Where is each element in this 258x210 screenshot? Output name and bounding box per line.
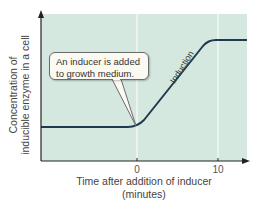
callout-line-1: An inducer is added (56, 56, 142, 68)
y-axis-title-line-1: Concentration of (7, 35, 19, 155)
y-axis-title: Concentration of inducible enzyme in a c… (2, 30, 36, 160)
x-tick-label-10: 10 (212, 164, 223, 175)
callout-line-2: to growth medium. (56, 68, 142, 80)
y-axis-title-line-2: inducible enzyme in a cell (19, 35, 31, 155)
x-tick-label-0: 0 (134, 164, 140, 175)
inducer-callout: An inducer is added to growth medium. (49, 52, 149, 80)
x-axis-title-line-2: (minutes) (41, 188, 247, 201)
x-axis-title-line-1: Time after addition of inducer (41, 175, 247, 188)
x-axis-title: Time after addition of inducer (minutes) (41, 175, 247, 200)
plot-area (41, 14, 247, 161)
